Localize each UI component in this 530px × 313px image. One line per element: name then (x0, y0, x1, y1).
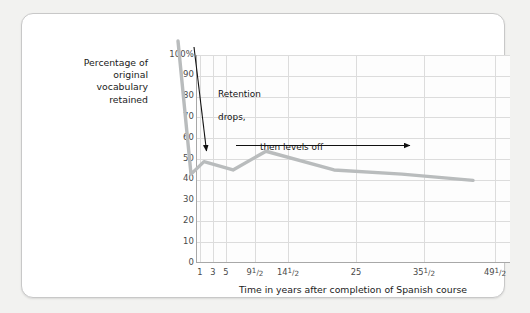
y-tick-90: 90 (154, 70, 194, 79)
y-axis-title: Percentage of original vocabulary retain… (64, 57, 148, 106)
y-tick-30: 30 (154, 195, 194, 204)
y-tick-70: 70 (154, 112, 194, 121)
gridline-v-25 (356, 55, 357, 263)
annotation-levels-off: then levels off (260, 142, 323, 153)
gridline-v-35h (424, 55, 425, 263)
x-tick-14-half: 141/2 (277, 267, 299, 277)
gridline-v-49h (495, 55, 496, 263)
x-axis-title: Time in years after completion of Spanis… (196, 284, 510, 295)
y-axis-line (196, 55, 197, 263)
gridline-h-50 (196, 159, 510, 160)
annotation-retention-drops: Retention drops, (218, 78, 261, 134)
y-tick-10: 10 (154, 237, 194, 246)
y-tick-50: 50 (154, 154, 194, 163)
x-tick-49-half: 491/2 (484, 267, 506, 277)
gridline-h-40 (196, 180, 510, 181)
gridline-h-30 (196, 201, 510, 202)
chart-screenshot: Percentage of original vocabulary retain… (0, 0, 530, 313)
x-tick-3: 3 (210, 267, 215, 277)
gridline-h-100 (196, 55, 510, 56)
y-axis-tick-labels: 100% 90 80 70 60 50 40 30 20 10 0 (150, 14, 194, 264)
annotation-retention-line-2: drops, (218, 112, 261, 123)
y-tick-80: 80 (154, 91, 194, 100)
y-axis-title-line-1: Percentage of (64, 57, 148, 69)
y-tick-20: 20 (154, 216, 194, 225)
gridline-h-60 (196, 138, 510, 139)
x-tick-5: 5 (223, 267, 228, 277)
gridline-h-10 (196, 242, 510, 243)
gridline-v-3 (213, 55, 214, 263)
y-axis-title-line-3: retained (64, 94, 148, 106)
x-tick-9-half: 91/2 (247, 267, 264, 277)
x-tick-1: 1 (197, 267, 202, 277)
gridline-v-1 (200, 55, 201, 263)
y-tick-0: 0 (154, 258, 194, 267)
gridline-h-20 (196, 221, 510, 222)
gridline-v-14h (288, 55, 289, 263)
y-tick-40: 40 (154, 174, 194, 183)
y-axis-title-line-2: original vocabulary (64, 69, 148, 93)
y-tick-60: 60 (154, 133, 194, 142)
annotation-retention-line-1: Retention (218, 89, 261, 100)
x-tick-35-half: 351/2 (413, 267, 435, 277)
x-axis-line (196, 262, 510, 263)
chart-card: Percentage of original vocabulary retain… (21, 13, 505, 298)
y-tick-100: 100% (154, 50, 194, 59)
x-tick-25: 25 (351, 267, 362, 277)
gridline-h-90 (196, 76, 510, 77)
